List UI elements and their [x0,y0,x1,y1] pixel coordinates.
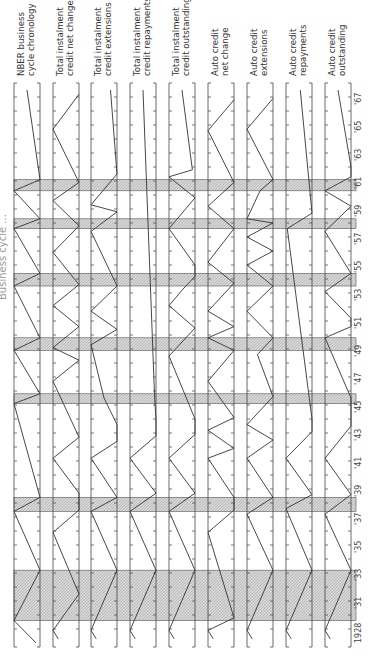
panel-3: Total instalmentcredit extensions [91,2,117,647]
panel-label: Auto creditextensions [249,28,269,76]
year-tick-label: '57 [354,233,363,245]
year-tick-label: '39 [354,485,363,497]
panel-label: Auto creditnet change [210,28,230,76]
year-tick-label: '53 [354,289,363,301]
recession-band [14,273,356,286]
year-tick-label: '35 [354,541,363,553]
year-tick-label: 1928 [354,623,363,643]
series-line [53,94,79,639]
rotated-cycle-chart: Business cycle ... NBER businesscycle ch… [0,0,368,671]
panel-5: Total instalmentcredit outstanding [169,0,195,647]
chart-title-fragment: Business cycle ... [0,214,8,300]
year-axis: 1928'31'33'35'37'39'41'43'45'47'49'51'53… [354,93,363,643]
series-line [130,90,156,639]
svg-text:NBER business: NBER business [16,12,26,76]
panel-label: Total instalmentcredit net change [55,0,75,77]
year-tick-label: '65 [354,121,363,133]
svg-text:credit outstanding: credit outstanding [181,0,191,76]
year-tick-label: '61 [354,177,363,189]
year-tick-label: '37 [354,513,363,525]
svg-text:extensions: extensions [259,29,269,76]
year-tick-label: '41 [354,457,363,469]
panel-8: Auto creditrepayments [286,24,312,647]
series-line [325,90,351,639]
svg-text:Total instalment: Total instalment [93,7,103,77]
year-tick-label: '63 [354,149,363,161]
svg-text:credit extensions: credit extensions [103,2,113,76]
svg-text:net change: net change [220,28,230,76]
recession-band [14,338,356,351]
svg-text:Auto credit: Auto credit [327,28,337,76]
svg-text:Business cycle ...: Business cycle ... [0,214,8,300]
svg-text:Auto credit: Auto credit [210,28,220,76]
series-panels: NBER businesscycle chronologyTotal insta… [14,0,351,647]
svg-text:Total instalment: Total instalment [55,7,65,77]
year-tick-label: '49 [354,345,363,357]
year-tick-label: '59 [354,205,363,217]
svg-text:Total instalment: Total instalment [171,7,181,77]
svg-text:cycle chronology: cycle chronology [26,3,36,76]
panel-1: NBER businesscycle chronology [14,3,40,647]
svg-text:credit repayments: credit repayments [142,0,152,76]
series-line [14,90,40,643]
svg-text:credit net change: credit net change [65,0,75,76]
year-tick-label: '51 [354,317,363,329]
recession-bands [14,180,356,621]
panel-label: Total instalmentcredit outstanding [171,0,191,77]
svg-text:repayments: repayments [298,24,308,76]
year-tick-label: '43 [354,429,363,441]
series-line [169,90,195,639]
panel-label: Auto creditoutstanding [327,25,347,76]
svg-text:outstanding: outstanding [337,25,347,76]
year-tick-label: '31 [354,597,363,609]
panel-4: Total instalmentcredit repayments [130,0,156,647]
series-line [286,90,312,639]
svg-text:Total instalment: Total instalment [132,7,142,77]
year-tick-label: '47 [354,373,363,385]
panel-label: Total instalmentcredit repayments [132,0,152,77]
panel-label: NBER businesscycle chronology [16,3,36,76]
recession-band [14,219,356,229]
year-tick-label: '67 [354,93,363,105]
year-tick-label: '45 [354,401,363,413]
panel-label: Total instalmentcredit extensions [93,2,113,77]
recession-band [14,497,356,511]
year-tick-label: '33 [354,569,363,581]
svg-text:Auto credit: Auto credit [288,28,298,76]
svg-text:Auto credit: Auto credit [249,28,259,76]
series-line [91,90,117,639]
panel-6: Auto creditnet change [208,28,234,647]
panel-9: Auto creditoutstanding [325,25,351,647]
recession-band [14,180,356,191]
year-tick-label: '55 [354,261,363,273]
panel-2: Total instalmentcredit net change [53,0,79,647]
panel-label: Auto creditrepayments [288,24,308,76]
